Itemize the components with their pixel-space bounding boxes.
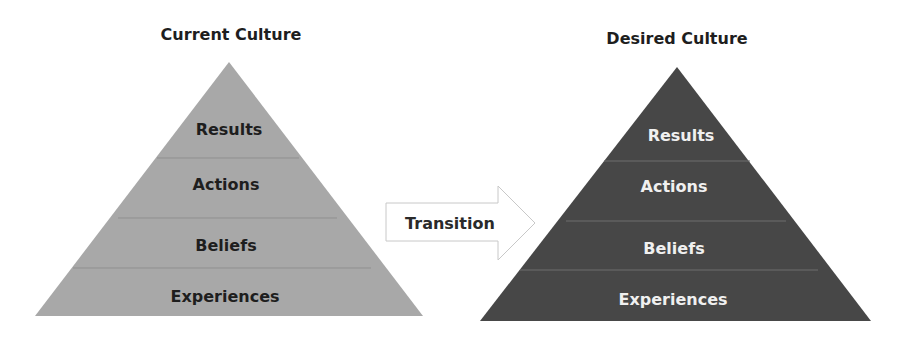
desired-layer-experiences: Experiences	[618, 290, 727, 309]
transition-label: Transition	[405, 214, 495, 233]
desired-layer-results: Results	[648, 126, 715, 145]
current-layer-results: Results	[196, 120, 263, 139]
current-culture-group: Current Culture Results Actions Beliefs …	[35, 25, 423, 316]
desired-culture-group: Desired Culture Results Actions Beliefs …	[480, 29, 871, 321]
desired-layer-actions: Actions	[641, 177, 708, 196]
desired-culture-title: Desired Culture	[606, 29, 747, 48]
culture-transition-diagram: Current Culture Results Actions Beliefs …	[0, 0, 903, 341]
current-culture-title: Current Culture	[161, 25, 302, 44]
current-layer-actions: Actions	[193, 175, 260, 194]
current-layer-experiences: Experiences	[170, 287, 279, 306]
current-layer-beliefs: Beliefs	[195, 236, 256, 255]
desired-layer-beliefs: Beliefs	[643, 239, 704, 258]
transition-arrow: Transition	[386, 186, 535, 260]
